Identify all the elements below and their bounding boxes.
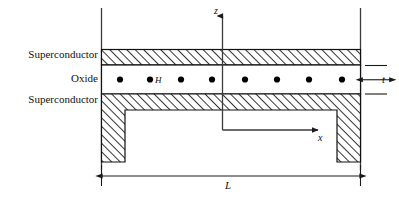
- dimension-label-t: t: [382, 74, 385, 85]
- label-oxide: Oxide: [6, 73, 98, 84]
- field-dot: [147, 76, 153, 82]
- josephson-junction-diagram: Superconductor Oxide Superconductor z x …: [0, 0, 399, 202]
- oxide-region: [102, 65, 361, 94]
- axis-label-z: z: [214, 6, 218, 16]
- label-lower-superconductor: Superconductor: [6, 94, 98, 105]
- axis-label-x: x: [318, 133, 322, 143]
- field-dot: [306, 76, 312, 82]
- field-dot: [242, 76, 248, 82]
- upper-superconductor-region: [102, 50, 361, 66]
- dimension-label-L: L: [225, 180, 231, 191]
- field-dot: [274, 76, 280, 82]
- field-dot: [209, 76, 215, 82]
- field-label-H: H: [155, 76, 162, 85]
- label-upper-superconductor: Superconductor: [6, 49, 98, 60]
- field-dot: [178, 76, 184, 82]
- lower-superconductor-region: [102, 94, 361, 162]
- field-dot: [117, 76, 123, 82]
- field-dot: [339, 76, 345, 82]
